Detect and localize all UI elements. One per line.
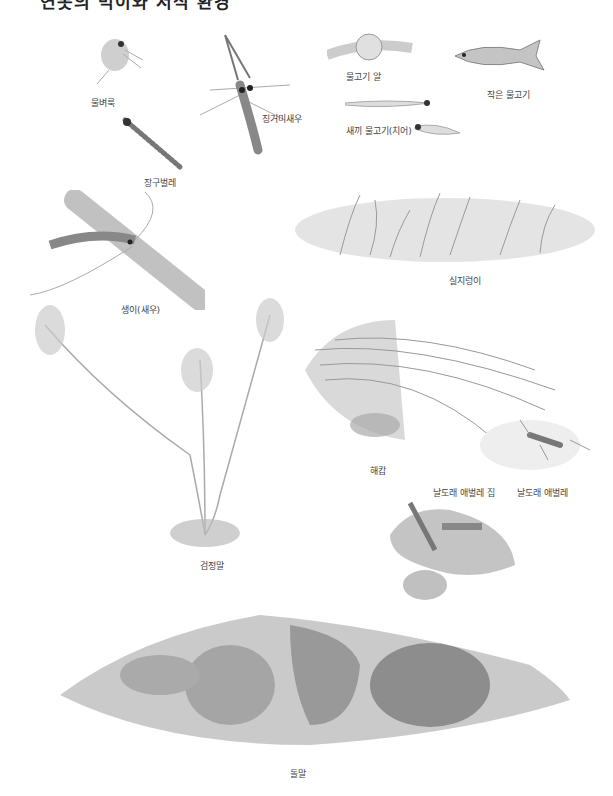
caddis-larva-illustration: [480, 410, 600, 470]
label-small-fish: 작은 물고기: [487, 88, 530, 101]
label-hydrilla: 검정말: [200, 559, 224, 572]
label-long-arm-shrimp: 징거미새우: [262, 112, 302, 125]
label-water-flea: 물벼룩: [91, 96, 115, 109]
long-arm-shrimp-illustration: [190, 30, 300, 160]
hydrilla-illustration: [15, 285, 295, 555]
label-fry: 새끼 물고기(치어): [346, 124, 412, 137]
stone-algae-rocks-illustration: [60, 605, 580, 755]
fish-egg-illustration: [327, 30, 417, 70]
tubifex-illustration: [280, 185, 610, 270]
label-tubifex: 실지렁이: [449, 274, 481, 287]
mosquito-larva-illustration: [120, 115, 190, 175]
water-flea-illustration: [85, 30, 145, 85]
label-mosquito-larva: 장구벌레: [144, 176, 176, 189]
page-title: 연못의 먹이와 서식 환경: [40, 0, 231, 13]
small-fish-illustration: [450, 36, 550, 76]
label-stone-algae: 돌말: [290, 767, 306, 780]
label-filamentous-algae: 해캄: [370, 464, 386, 477]
label-fish-egg: 물고기 알: [346, 70, 381, 83]
caddis-case-rock-illustration: [380, 495, 540, 605]
